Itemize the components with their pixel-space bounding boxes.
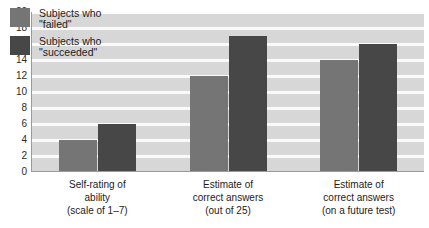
- x-axis-labels: Self-rating of ability (scale of 1–7)Est…: [32, 178, 424, 224]
- legend-swatch-succeeded: [10, 36, 30, 55]
- bar-succeeded-group-2: [229, 36, 267, 172]
- bar-succeeded-group-1: [98, 124, 136, 172]
- y-axis-tick-label: 8: [21, 103, 27, 113]
- y-axis-tick-label: 2: [21, 151, 27, 161]
- x-axis-line: [32, 171, 424, 172]
- y-axis-tick-label: 12: [16, 71, 27, 81]
- x-axis-category-label: Estimate of correct answers (on a future…: [293, 178, 424, 217]
- y-axis-tick-label: 10: [16, 87, 27, 97]
- legend-item-failed: Subjects who "failed": [10, 8, 101, 30]
- y-axis-tick-label: 4: [21, 135, 27, 145]
- legend-label-succeeded: Subjects who "succeeded": [39, 36, 101, 58]
- y-axis-tick-label: 0: [21, 167, 27, 177]
- legend-label-failed: Subjects who "failed": [39, 8, 101, 30]
- x-axis-category-label: Self-rating of ability (scale of 1–7): [32, 178, 163, 217]
- bar-failed-group-3: [320, 60, 358, 172]
- bar-succeeded-group-3: [359, 44, 397, 172]
- x-axis-category-label: Estimate of correct answers (out of 25): [163, 178, 294, 217]
- bar-failed-group-1: [59, 140, 97, 172]
- legend-swatch-failed: [10, 8, 30, 27]
- bar-chart-figure: 20181614121086420 Subjects who "failed" …: [0, 0, 429, 228]
- chart-legend: Subjects who "failed" Subjects who "succ…: [10, 8, 101, 64]
- legend-item-succeeded: Subjects who "succeeded": [10, 36, 101, 58]
- y-axis-tick-label: 6: [21, 119, 27, 129]
- bar-failed-group-2: [190, 76, 228, 172]
